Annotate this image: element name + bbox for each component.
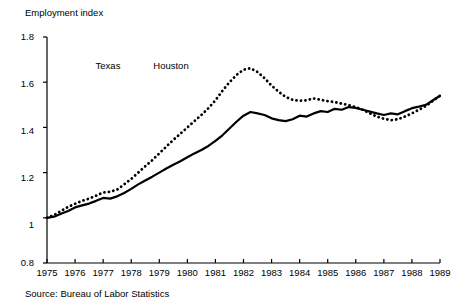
series-line-houston xyxy=(47,68,440,218)
plot-area xyxy=(0,0,464,303)
x-tick-label: 1989 xyxy=(423,268,457,278)
axis-lines xyxy=(47,37,440,263)
series-line-texas xyxy=(47,96,440,218)
chart-figure: Employment index Texas Houston 1.8 1.6 1… xyxy=(0,0,464,303)
data-series-layer xyxy=(47,68,440,218)
source-note: Source: Bureau of Labor Statistics xyxy=(25,288,169,299)
